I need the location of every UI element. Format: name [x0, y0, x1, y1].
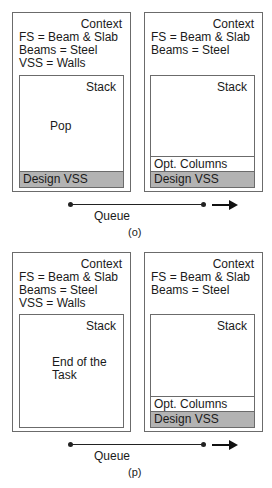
arrow-shaft — [212, 444, 230, 446]
stack-item-opt-columns: Opt. Columns — [151, 156, 254, 172]
context-line: Beams = Steel — [151, 284, 250, 297]
stack-title: Stack — [86, 80, 116, 94]
stack-title: Stack — [217, 80, 247, 94]
figure-caption: (o) — [128, 226, 141, 238]
stack-box: Stack Opt. Columns Design VSS — [150, 314, 255, 428]
queue-label: Queue — [94, 449, 130, 463]
context-line: VSS = Walls — [19, 297, 118, 310]
figure-p: Context FS = Beam & Slab Beams = Steel V… — [0, 240, 272, 484]
context-values: FS = Beam & Slab Beams = Steel VSS = Wal… — [19, 271, 118, 310]
context-title: Context — [81, 17, 122, 31]
stack-item-design-vss: Design VSS — [151, 171, 254, 187]
context-title: Context — [81, 257, 122, 271]
stack-item-design-vss: Design VSS — [20, 171, 123, 187]
context-values: FS = Beam & Slab Beams = Steel — [151, 31, 250, 57]
stack-note: Pop — [50, 120, 123, 133]
queue-line — [70, 444, 203, 445]
queue-label: Queue — [94, 209, 130, 223]
context-title: Context — [213, 17, 254, 31]
context-line: Beams = Steel — [151, 44, 250, 57]
context-panel-left: Context FS = Beam & Slab Beams = Steel V… — [12, 12, 131, 192]
stack-box: Stack End of the Task — [19, 314, 124, 428]
stack-title: Stack — [86, 319, 116, 333]
stack-note: End of the Task — [52, 356, 123, 382]
stack-box: Stack Opt. Columns Design VSS — [150, 75, 255, 188]
queue-end-dot — [201, 442, 206, 447]
context-panel-left: Context FS = Beam & Slab Beams = Steel V… — [12, 252, 131, 432]
stack-item-opt-columns: Opt. Columns — [151, 396, 254, 412]
stack-box: Stack Pop Design VSS — [19, 75, 124, 188]
context-values: FS = Beam & Slab Beams = Steel — [151, 271, 250, 297]
queue-line — [70, 204, 203, 205]
context-values: FS = Beam & Slab Beams = Steel VSS = Wal… — [19, 31, 118, 70]
arrow-right-icon — [229, 200, 238, 210]
stack-title: Stack — [217, 319, 247, 333]
queue-end-dot — [201, 202, 206, 207]
context-title: Context — [213, 257, 254, 271]
stack-note-line: Task — [52, 369, 123, 382]
arrow-right-icon — [229, 440, 238, 450]
stack-item-design-vss: Design VSS — [151, 411, 254, 427]
context-panel-right: Context FS = Beam & Slab Beams = Steel S… — [144, 252, 263, 432]
figure-caption: (p) — [128, 466, 141, 478]
context-line: VSS = Walls — [19, 57, 118, 70]
context-panel-right: Context FS = Beam & Slab Beams = Steel S… — [144, 12, 263, 192]
figure-o: Context FS = Beam & Slab Beams = Steel V… — [0, 0, 272, 244]
arrow-shaft — [212, 204, 230, 206]
